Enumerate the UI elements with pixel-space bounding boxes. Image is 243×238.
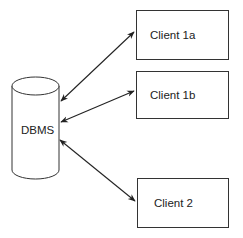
client-2-label: Client 2 bbox=[154, 197, 193, 209]
client-1b-box: Client 1b bbox=[136, 71, 229, 119]
dbms-label: DBMS bbox=[21, 124, 54, 136]
arrow-dbms-client-1a bbox=[61, 32, 134, 101]
arrow-dbms-client-1b bbox=[61, 91, 134, 122]
client-1b-label: Client 1b bbox=[150, 89, 195, 101]
client-1a-box: Client 1a bbox=[136, 10, 229, 60]
client-2-box: Client 2 bbox=[137, 178, 229, 228]
client-1a-label: Client 1a bbox=[150, 29, 195, 41]
arrow-dbms-client-2 bbox=[60, 140, 135, 201]
